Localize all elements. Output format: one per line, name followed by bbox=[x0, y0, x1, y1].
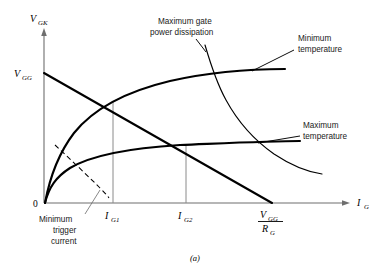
curve-minimum-temperature bbox=[45, 69, 285, 203]
fraction-numerator-main: V bbox=[260, 209, 268, 220]
annotation-max-power-dissipation: Maximum gate power dissipation bbox=[150, 17, 214, 52]
x-axis-title: I G bbox=[356, 197, 369, 210]
x-tick-1-main: I bbox=[104, 210, 109, 221]
y-tick-supply-voltage: V GG bbox=[14, 68, 32, 81]
annotation-max-temp-line1: Maximum bbox=[303, 121, 339, 130]
y-tick-sub: GG bbox=[22, 74, 32, 81]
annotation-max-power-line2: power dissipation bbox=[150, 28, 214, 37]
annotation-max-power-line1: Maximum gate bbox=[158, 17, 212, 26]
x-tick-1-sub: G1 bbox=[111, 216, 119, 223]
gate-characteristics-figure: V GK I G 0 V GG I G1 I G2 V GG R G Maxim… bbox=[0, 0, 381, 277]
fraction-denominator-main: R bbox=[261, 223, 268, 234]
annotation-min-trigger-line1: Minimum bbox=[39, 215, 72, 224]
curve-load-line bbox=[44, 73, 272, 203]
curve-minimum-trigger-current bbox=[55, 145, 109, 198]
y-tick-main: V bbox=[14, 68, 22, 79]
x-tick-2-main: I bbox=[177, 210, 182, 221]
curve-max-power-dissipation bbox=[205, 45, 322, 174]
annotation-minimum-trigger-current: Minimum trigger current bbox=[39, 190, 100, 246]
annotation-min-trigger-line3: current bbox=[51, 237, 77, 246]
x-tick-2-sub: G2 bbox=[184, 216, 193, 223]
x-tick-short-circuit-current: V GG R G bbox=[258, 209, 283, 236]
y-axis-arrowhead bbox=[41, 28, 47, 36]
y-axis-title-sub: GK bbox=[38, 19, 48, 26]
leader-max-power bbox=[196, 39, 206, 52]
leader-min-trigger bbox=[85, 190, 100, 214]
annotation-max-temp-line2: temperature bbox=[303, 132, 348, 141]
x-tick-gate-current-2: I G2 bbox=[177, 210, 193, 223]
x-tick-gate-current-1: I G1 bbox=[104, 210, 119, 223]
annotation-minimum-temperature: Minimum temperature bbox=[252, 34, 343, 71]
fraction-numerator-sub: GG bbox=[268, 215, 278, 222]
annotation-min-temp-line1: Minimum bbox=[298, 34, 331, 43]
fraction-denominator-sub: G bbox=[270, 229, 275, 236]
x-axis-title-main: I bbox=[356, 197, 361, 208]
annotation-min-temp-line2: temperature bbox=[298, 45, 343, 54]
figure-caption: (a) bbox=[190, 253, 200, 263]
leader-min-temp bbox=[252, 50, 294, 71]
y-axis-title: V GK bbox=[30, 13, 48, 26]
curve-maximum-temperature bbox=[45, 141, 300, 203]
annotation-maximum-temperature: Maximum temperature bbox=[258, 121, 348, 143]
x-axis-arrowhead bbox=[342, 200, 350, 206]
axis-group bbox=[41, 28, 350, 206]
origin-label: 0 bbox=[33, 199, 38, 209]
annotation-min-trigger-line2: trigger bbox=[53, 226, 76, 235]
y-axis-title-main: V bbox=[30, 13, 38, 24]
x-axis-title-sub: G bbox=[364, 203, 369, 210]
